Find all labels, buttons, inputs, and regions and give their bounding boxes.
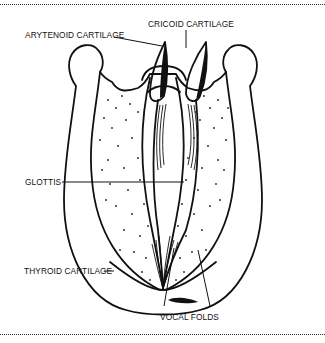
glottis-label: GLOTTIS <box>25 177 62 187</box>
larynx-diagram: CRICOID CARTILAGE ARYTENOID CARTILAGE GL… <box>0 0 325 343</box>
vocal-fold-striations <box>152 104 197 288</box>
commissure-shading <box>168 298 198 303</box>
arytenoid-label: ARYTENOID CARTILAGE <box>25 30 125 40</box>
thyroid-label: THYROID CARTILAGE <box>24 266 113 276</box>
thyroid-right-lamina <box>166 72 235 290</box>
cricoid-label: CRICOID CARTILAGE <box>148 19 234 29</box>
right-arytenoid-shadow <box>196 42 207 100</box>
vocal-folds-label: VOCAL FOLDS <box>160 312 219 322</box>
thyroid-left-lamina <box>91 72 160 290</box>
